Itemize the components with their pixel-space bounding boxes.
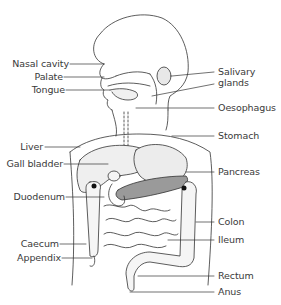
head-outline bbox=[94, 15, 189, 110]
label-anus: Anus bbox=[218, 286, 241, 297]
label-rectum: Rectum bbox=[218, 270, 254, 281]
label-nasal-cavity: Nasal cavity bbox=[12, 58, 69, 69]
label-pancreas: Pancreas bbox=[218, 166, 260, 177]
label-liver: Liver bbox=[20, 141, 43, 152]
label-salivary-line1: Salivary bbox=[218, 66, 255, 77]
label-appendix: Appendix bbox=[17, 252, 61, 263]
label-caecum: Caecum bbox=[21, 238, 59, 249]
label-colon: Colon bbox=[218, 216, 244, 227]
label-duodenum: Duodenum bbox=[13, 191, 65, 202]
label-salivary-glands: Salivary glands bbox=[218, 66, 255, 88]
digestive-system-diagram: Nasal cavity Palate Tongue Liver Gall bl… bbox=[0, 0, 281, 305]
label-tongue: Tongue bbox=[32, 84, 65, 95]
label-stomach: Stomach bbox=[218, 130, 259, 141]
label-salivary-line2: glands bbox=[218, 77, 255, 88]
colon-shape bbox=[86, 181, 101, 256]
face-outline bbox=[101, 78, 112, 110]
label-ileum: Ileum bbox=[218, 234, 244, 245]
small-intestine bbox=[104, 205, 178, 248]
pancreas-shape bbox=[116, 176, 188, 200]
label-oesophagus: Oesophagus bbox=[218, 102, 276, 113]
label-gall-bladder: Gall bladder bbox=[6, 158, 63, 169]
label-palate: Palate bbox=[34, 71, 63, 82]
